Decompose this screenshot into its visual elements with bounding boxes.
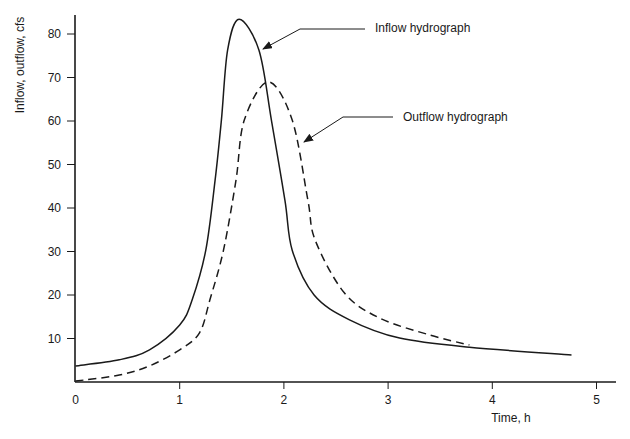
x-tick-label: 0 (72, 393, 79, 407)
x-tick-label: 3 (385, 393, 392, 407)
y-tick-label: 50 (48, 158, 62, 172)
y-tick-label: 40 (48, 201, 62, 215)
series-group (76, 19, 572, 381)
x-ticks: 012345 (72, 382, 600, 407)
x-tick-label: 1 (176, 393, 183, 407)
axes: 1020304050607080 012345 (48, 15, 616, 407)
y-tick-label: 60 (48, 114, 62, 128)
x-tick-label: 5 (593, 393, 600, 407)
y-tick-label: 70 (48, 71, 62, 85)
outflow-arrow (304, 117, 393, 142)
inflow-hydrograph-line (76, 19, 572, 366)
y-tick-label: 10 (48, 332, 62, 346)
inflow-arrow (263, 29, 365, 49)
outflow-annotation-label: Outflow hydrograph (403, 110, 508, 124)
hydrograph-chart: 1020304050607080 012345 Inflow, outflow,… (0, 0, 630, 439)
y-tick-label: 80 (48, 27, 62, 41)
y-axis-label: Inflow, outflow, cfs (13, 17, 27, 114)
y-tick-label: 30 (48, 245, 62, 259)
y-tick-label: 20 (48, 288, 62, 302)
inflow-annotation: Inflow hydrograph (263, 21, 470, 49)
y-ticks: 1020304050607080 (48, 27, 75, 346)
outflow-annotation: Outflow hydrograph (304, 110, 508, 142)
x-tick-label: 4 (489, 393, 496, 407)
x-tick-label: 2 (281, 393, 288, 407)
x-axis-label: Time, h (491, 411, 531, 425)
inflow-annotation-label: Inflow hydrograph (375, 21, 470, 35)
